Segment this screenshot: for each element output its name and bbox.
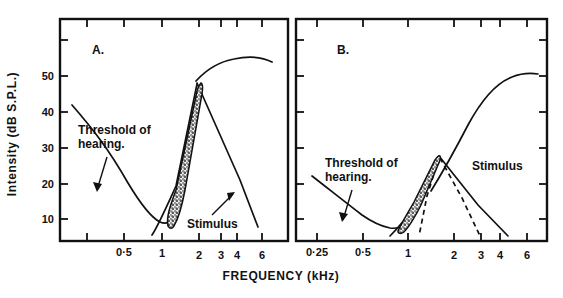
panel-b-stimulus-label: Stimulus: [472, 159, 523, 173]
x-tick-label: 1: [405, 247, 411, 259]
y-tick-label: 10: [42, 213, 54, 225]
x-tick-label: 0·5: [355, 246, 371, 258]
panel-a-response-curve: [196, 57, 272, 81]
figure-canvas: Intensity (dB S.P.L.) 50 40 30 20 10: [0, 0, 563, 298]
x-tick-label: 6: [524, 249, 530, 261]
x-tick-label: 3: [478, 249, 484, 261]
audiogram-figure: Intensity (dB S.P.L.) 50 40 30 20 10: [0, 0, 563, 298]
x-tick-label: 1: [159, 247, 165, 259]
panel-b-threshold-label-line2: hearing.: [325, 170, 372, 184]
panel-a-threshold-leader-arrow: [93, 157, 107, 192]
panel-a-stimulus-falling: [197, 83, 258, 227]
panel-a-stimulus-leader-arrow: [212, 192, 235, 215]
panel-b-audible-band: [398, 156, 440, 234]
y-tick-label: 40: [42, 106, 54, 118]
y-tick-labels: 50 40 30 20 10: [42, 70, 54, 225]
y-tick-label: 30: [42, 142, 54, 154]
panel-a-audible-band: [167, 83, 202, 228]
panel-a-threshold-label-line1: Threshold of: [78, 123, 152, 137]
x-tick-label: 4: [497, 249, 504, 261]
panel-b-response-curve: [431, 73, 538, 191]
panel-b-letter: B.: [337, 43, 349, 57]
panel-a: 0·5 1 2 3 4 6 A. Threshold of hearing. S…: [60, 19, 288, 261]
x-tick-label: 3: [218, 249, 224, 261]
panel-a-x-tick-labels: 0·5 1 2 3 4 6: [116, 246, 265, 261]
x-tick-label: 2: [451, 249, 457, 261]
panel-b: 0·25 0·5 1 2 3 4 6 B. Threshold of heari…: [296, 19, 547, 261]
panel-b-threshold-label-line1: Threshold of: [325, 156, 399, 170]
x-tick-label: 0·25: [306, 246, 328, 258]
panel-a-letter: A.: [92, 43, 104, 57]
x-tick-label: 2: [196, 249, 202, 261]
panel-a-threshold-label-line2: hearing.: [78, 137, 125, 151]
y-tick-label: 20: [42, 178, 54, 190]
x-axis-title: FREQUENCY (kHz): [223, 269, 340, 283]
panel-a-stimulus-label: Stimulus: [187, 217, 238, 231]
x-tick-label: 4: [234, 249, 241, 261]
y-axis-title: Intensity (dB S.P.L.): [5, 72, 19, 196]
x-tick-label: 6: [259, 249, 265, 261]
y-tick-label: 50: [42, 70, 54, 82]
x-tick-label: 0·5: [116, 246, 132, 258]
panel-b-frame: [296, 19, 547, 241]
panel-b-x-tick-labels: 0·25 0·5 1 2 3 4 6: [306, 246, 530, 261]
